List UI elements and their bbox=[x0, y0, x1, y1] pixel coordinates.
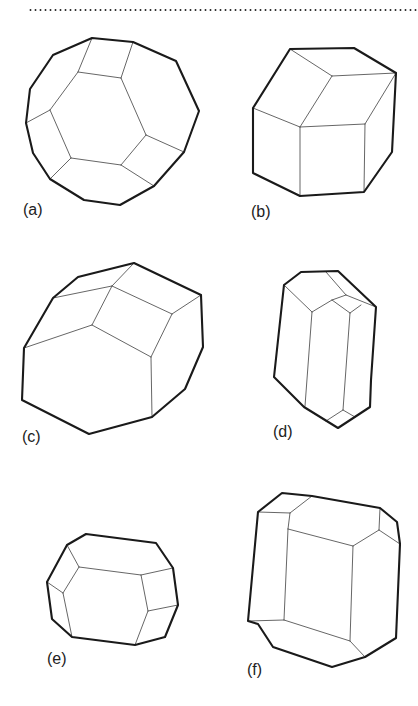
crystal-edge bbox=[141, 575, 148, 611]
crystal-edge bbox=[288, 529, 353, 546]
crystal-f bbox=[248, 493, 400, 667]
crystal-outline bbox=[248, 493, 400, 667]
crystal-edge bbox=[288, 513, 290, 529]
crystal-edge bbox=[172, 295, 201, 314]
crystal-edge bbox=[148, 605, 178, 611]
crystal-edge bbox=[112, 286, 172, 314]
crystal-edge bbox=[364, 124, 365, 192]
crystal-edge bbox=[79, 567, 141, 575]
crystal-edge bbox=[326, 410, 343, 421]
crystal-edge bbox=[350, 546, 353, 641]
crystal-edge bbox=[332, 300, 350, 313]
panel-label-a: (a) bbox=[23, 202, 43, 218]
crystal-edge bbox=[121, 78, 146, 135]
crystal-edge bbox=[365, 73, 396, 124]
crystal-a bbox=[26, 38, 199, 205]
crystal-edge bbox=[284, 285, 312, 312]
crystal-edge bbox=[300, 124, 365, 127]
crystal-edge bbox=[305, 312, 312, 406]
crystal-outline bbox=[47, 534, 178, 645]
crystal-edge bbox=[290, 49, 332, 76]
crystal-edge bbox=[284, 620, 350, 641]
crystal-edge bbox=[312, 300, 332, 312]
crystal-edge bbox=[151, 314, 172, 357]
crystal-edge bbox=[141, 568, 173, 575]
crystal-edge bbox=[353, 530, 379, 546]
crystal-edge bbox=[92, 325, 151, 357]
crystal-edge bbox=[248, 620, 284, 621]
crystal-edge bbox=[121, 135, 146, 165]
crystal-edge bbox=[71, 158, 121, 165]
crystal-edge bbox=[47, 582, 63, 593]
crystal-edge bbox=[50, 72, 78, 110]
crystal-edge bbox=[146, 135, 184, 152]
crystal-edge bbox=[50, 158, 71, 179]
crystal-edge bbox=[332, 295, 346, 300]
crystal-edge bbox=[78, 72, 121, 78]
crystal-edge bbox=[253, 108, 300, 127]
crystal-edge bbox=[26, 110, 50, 123]
crystal-c bbox=[22, 263, 203, 434]
crystal-edge bbox=[92, 286, 112, 325]
crystal-outline bbox=[253, 48, 396, 196]
crystal-edge bbox=[343, 313, 350, 410]
panel-label-b: (b) bbox=[251, 204, 271, 220]
crystal-edge bbox=[67, 545, 79, 567]
crystal-e bbox=[47, 534, 178, 645]
crystal-d bbox=[274, 271, 376, 428]
panel-label-c: (c) bbox=[22, 429, 41, 445]
crystal-edge bbox=[379, 508, 380, 530]
crystal-edge bbox=[300, 76, 332, 127]
crystal-outline bbox=[274, 271, 376, 428]
crystal-edge bbox=[290, 496, 312, 513]
panel-label-e: (e) bbox=[47, 651, 67, 667]
crystal-edge bbox=[258, 512, 290, 513]
crystal-edge bbox=[50, 110, 71, 158]
crystal-morphology-figure bbox=[0, 0, 418, 706]
crystal-outline bbox=[22, 263, 203, 434]
crystal-edge bbox=[121, 165, 154, 186]
crystal-edge bbox=[343, 410, 355, 417]
crystal-edge bbox=[332, 73, 396, 76]
crystal-edge bbox=[284, 529, 288, 620]
crystal-b bbox=[253, 48, 396, 196]
crystal-edge bbox=[135, 611, 148, 645]
crystal-edge bbox=[63, 567, 79, 593]
crystal-edge bbox=[121, 42, 133, 78]
crystal-edge bbox=[350, 641, 365, 657]
crystal-edge bbox=[53, 286, 112, 298]
crystal-outline bbox=[26, 38, 199, 205]
panel-label-f: (f) bbox=[247, 662, 262, 678]
crystal-edge bbox=[379, 530, 400, 544]
panel-label-d: (d) bbox=[273, 424, 293, 440]
crystal-edge bbox=[350, 305, 361, 313]
crystal-edge bbox=[151, 357, 152, 417]
